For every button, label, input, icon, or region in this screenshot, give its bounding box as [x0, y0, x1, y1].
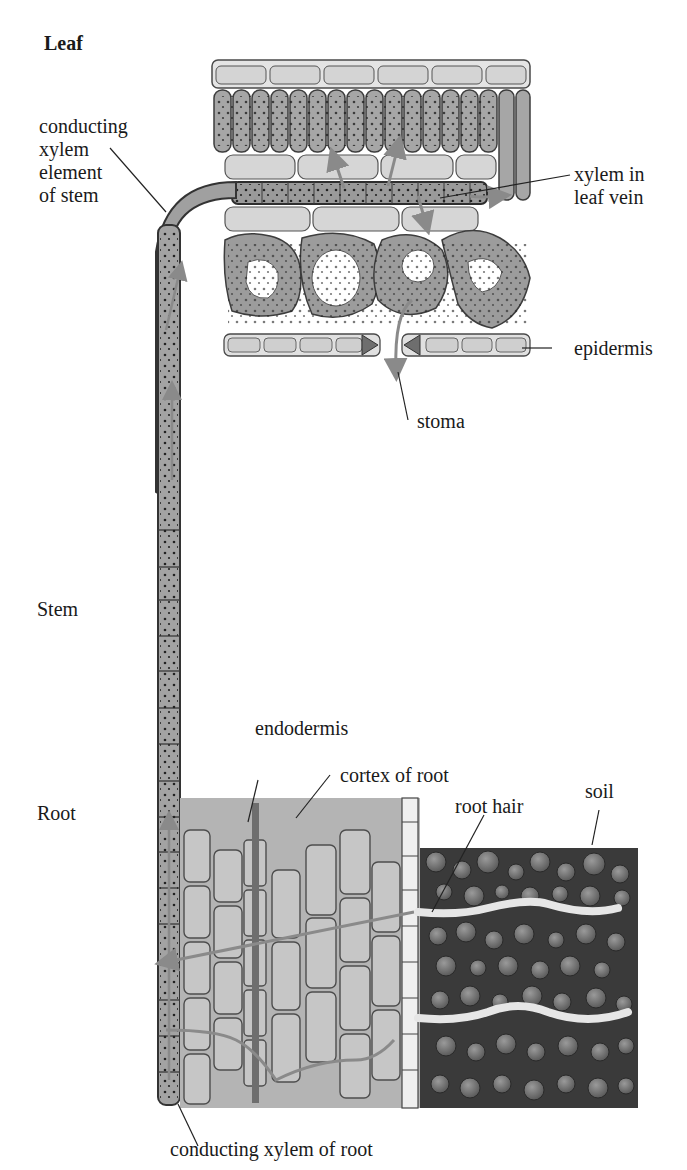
label-epidermis: epidermis [574, 337, 653, 359]
section-label-stem: Stem [37, 598, 78, 620]
label-endodermis: endodermis [255, 717, 348, 739]
label-xylem-leaf-vein: xylem in leaf vein [574, 163, 645, 209]
label-conducting-xylem-stem: conducting xylem element of stem [39, 115, 128, 207]
label-root-hair: root hair [455, 795, 523, 817]
label-stoma: stoma [417, 410, 465, 432]
label-soil: soil [585, 780, 614, 802]
root-cortex [166, 798, 420, 1108]
soil-block [418, 848, 638, 1108]
section-label-leaf: Leaf [44, 32, 83, 54]
leaf-cross-section [212, 60, 530, 370]
label-cortex-of-root: cortex of root [340, 764, 449, 786]
label-conducting-xylem-root: conducting xylem of root [170, 1138, 373, 1160]
section-label-root: Root [37, 802, 76, 824]
